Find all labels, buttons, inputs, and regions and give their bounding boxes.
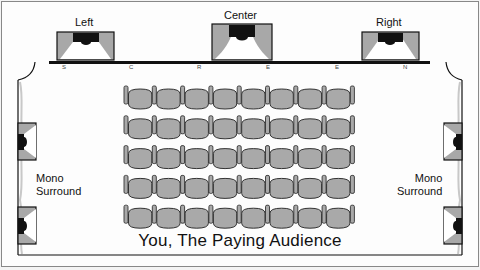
seat-icon [157,119,180,139]
armrest [266,175,270,193]
armrest [350,205,354,223]
left-speaker-icon [57,32,114,60]
seat-icon [242,89,265,109]
seat-icon [129,119,152,139]
seating-area [124,86,354,228]
armrest [152,146,156,164]
armrest [294,86,298,104]
right-surround-label: Mono Surround [397,172,442,198]
seat-icon [129,208,152,228]
seat-icon [298,178,321,198]
seat-icon [242,178,265,198]
screen-letter: C [129,64,133,70]
seat-row [124,146,354,169]
armrest [181,86,185,104]
armrest [181,175,185,193]
armrest [266,86,270,104]
seat-icon [298,208,321,228]
armrest [350,175,354,193]
screen-letter: E [266,64,270,70]
audience-label: You, The Paying Audience [0,231,480,251]
right-speaker-label: Right [376,16,402,28]
seat-icon [242,149,265,169]
seat-icon [185,178,208,198]
seat-row [124,116,354,139]
armrest [209,116,213,134]
armrest [237,86,241,104]
armrest [294,205,298,223]
armrest [350,116,354,134]
seat-icon [213,178,236,198]
seat-icon [298,119,321,139]
seat-icon [213,89,236,109]
armrest [152,205,156,223]
armrest [266,205,270,223]
seat-icon [327,89,350,109]
seat-icon [129,89,152,109]
seat-icon [157,178,180,198]
armrest [350,86,354,104]
seat-icon [270,149,293,169]
armrest [181,205,185,223]
screen-letter: E [335,64,339,70]
center-speaker-icon [212,24,272,60]
armrest [209,205,213,223]
armrest [124,86,128,104]
armrest [124,175,128,193]
center-speaker-label: Center [224,9,257,21]
armrest [152,175,156,193]
seat-icon [213,208,236,228]
seat-icon [185,208,208,228]
screen-letter: S [62,64,66,70]
seat-icon [270,119,293,139]
armrest [237,205,241,223]
seat-icon [298,149,321,169]
right-surround-speaker-top-icon [444,123,462,160]
seat-icon [185,89,208,109]
armrest [266,116,270,134]
seat-icon [185,119,208,139]
armrest [322,116,326,134]
armrest [152,116,156,134]
right-speaker-icon [362,32,419,60]
seat-icon [327,178,350,198]
armrest [209,175,213,193]
seat-icon [298,89,321,109]
seat-row [124,86,354,109]
armrest [237,116,241,134]
armrest [322,86,326,104]
seat-icon [242,208,265,228]
left-surround-label: Mono Surround [36,172,81,198]
left-surround-line1: Mono [36,172,81,185]
seat-icon [327,119,350,139]
armrest [209,146,213,164]
armrest [237,146,241,164]
armrest [152,86,156,104]
seat-row [124,175,354,198]
armrest [322,146,326,164]
seat-icon [129,149,152,169]
armrest [181,116,185,134]
seat-icon [185,149,208,169]
seat-icon [129,178,152,198]
seat-icon [327,149,350,169]
armrest [294,146,298,164]
right-surround-line2: Surround [397,185,442,198]
seat-icon [270,178,293,198]
seat-row [124,205,354,228]
seat-icon [327,208,350,228]
left-surround-line2: Surround [36,185,81,198]
screen-letter: R [197,64,201,70]
armrest [322,205,326,223]
left-speaker-label: Left [75,16,93,28]
seat-icon [270,89,293,109]
armrest [209,86,213,104]
armrest [294,116,298,134]
screen-line [49,61,430,64]
seat-icon [213,149,236,169]
left-surround-speaker-top-icon [18,123,36,160]
armrest [181,146,185,164]
seat-icon [213,119,236,139]
armrest [322,175,326,193]
seat-icon [157,208,180,228]
